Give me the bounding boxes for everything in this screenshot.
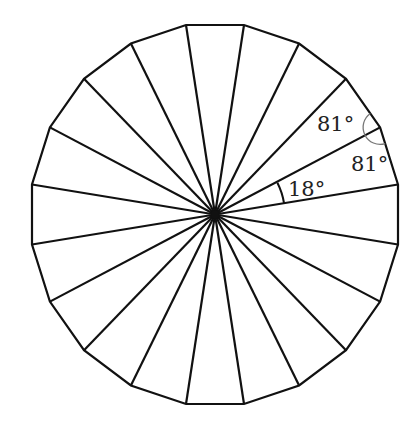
label-81-degrees-upper: 81° [317,112,354,136]
spoke-line [84,215,215,351]
polygon-diagram: 18° 81° 81° [0,0,419,425]
central-angle-arc [277,183,284,204]
center-point [211,211,219,219]
label-81-degrees-lower: 81° [351,152,388,176]
label-18-degrees: 18° [288,177,325,201]
spoke-line [215,215,346,351]
spoke-line [84,79,215,215]
spoke-line [215,79,346,215]
